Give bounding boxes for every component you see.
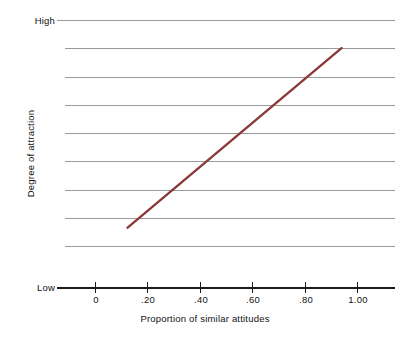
x-tick-mark [252, 282, 253, 293]
x-tick-mark [200, 282, 201, 293]
high-label-stub [57, 20, 66, 21]
gridline [65, 77, 395, 78]
gridline [65, 190, 395, 191]
gridline [65, 218, 395, 219]
gridline [65, 105, 395, 106]
gridline [65, 48, 395, 49]
gridline [65, 161, 395, 162]
y-axis-low-label: Low [9, 282, 55, 293]
gridline [65, 262, 395, 263]
x-tick-mark [147, 282, 148, 293]
x-axis-title: Proportion of similar attitudes [0, 313, 410, 324]
x-tick-label-0: 0 [76, 294, 116, 305]
y-axis-title: Degree of attraction [25, 74, 36, 234]
x-tick-label-40: .40 [181, 294, 221, 305]
x-tick-mark [95, 282, 96, 293]
x-axis-line [65, 287, 395, 289]
x-tick-mark [357, 282, 358, 293]
x-tick-label-80: .80 [286, 294, 326, 305]
x-tick-label-100: 1.00 [338, 294, 378, 305]
gridline [65, 20, 395, 21]
x-tick-label-60: .60 [233, 294, 273, 305]
x-tick-label-20: .20 [128, 294, 168, 305]
plot-area [65, 20, 395, 288]
gridline [65, 246, 395, 247]
x-tick-mark [305, 282, 306, 293]
chart-figure: 0 .20 .40 .60 .80 1.00 High Low Degree o… [0, 0, 410, 341]
y-axis-high-label: High [9, 15, 55, 26]
gridline [65, 133, 395, 134]
